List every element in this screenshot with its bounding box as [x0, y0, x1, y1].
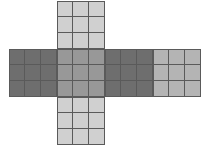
net-cell: [73, 17, 88, 32]
net-cell: [89, 81, 104, 96]
net-cell: [41, 50, 56, 65]
net-cell: [89, 33, 104, 48]
net-cell: [73, 81, 88, 96]
net-cell: [10, 81, 25, 96]
net-cell: [10, 50, 25, 65]
net-cell: [121, 81, 136, 96]
net-cell: [137, 50, 152, 65]
net-cell: [106, 81, 121, 96]
net-cell: [58, 65, 73, 80]
net-cell: [154, 50, 169, 65]
net-face-top: [57, 1, 105, 49]
net-cell: [25, 50, 40, 65]
net-cell: [137, 81, 152, 96]
net-cell: [58, 113, 73, 128]
net-cell: [58, 2, 73, 17]
cube-net-figure: [0, 0, 204, 149]
net-cell: [169, 65, 184, 80]
net-cell: [137, 65, 152, 80]
net-cell: [89, 129, 104, 144]
net-cell: [73, 98, 88, 113]
net-cell: [25, 81, 40, 96]
net-cell: [154, 81, 169, 96]
net-cell: [58, 50, 73, 65]
net-cell: [73, 33, 88, 48]
net-face-center: [57, 49, 105, 97]
net-cell: [89, 65, 104, 80]
net-cell: [58, 129, 73, 144]
net-cell: [185, 65, 200, 80]
net-cell: [121, 50, 136, 65]
net-cell: [89, 98, 104, 113]
net-cell: [73, 50, 88, 65]
net-cell: [73, 2, 88, 17]
net-cell: [89, 113, 104, 128]
net-cell: [89, 2, 104, 17]
net-cell: [73, 65, 88, 80]
net-cell: [73, 113, 88, 128]
net-cell: [25, 65, 40, 80]
net-cell: [41, 65, 56, 80]
net-cell: [58, 81, 73, 96]
net-cell: [121, 65, 136, 80]
net-face-bottom: [57, 97, 105, 145]
net-face-right: [105, 49, 153, 97]
net-cell: [106, 65, 121, 80]
net-face-left: [9, 49, 57, 97]
net-cell: [106, 50, 121, 65]
net-cell: [58, 17, 73, 32]
net-cell: [73, 129, 88, 144]
net-cell: [41, 81, 56, 96]
net-cell: [89, 50, 104, 65]
net-cell: [58, 98, 73, 113]
net-face-far-right: [153, 49, 201, 97]
net-cell: [185, 50, 200, 65]
net-cell: [169, 81, 184, 96]
net-cell: [169, 50, 184, 65]
net-cell: [10, 65, 25, 80]
net-cell: [58, 33, 73, 48]
net-cell: [89, 17, 104, 32]
net-cell: [185, 81, 200, 96]
net-cell: [154, 65, 169, 80]
